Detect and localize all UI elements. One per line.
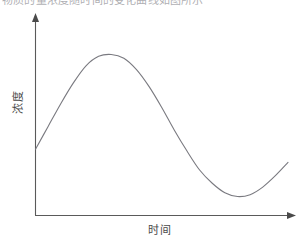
chart-figure: 物质的量浓度随时间的变化曲线如图所示 浓度 时间	[0, 0, 305, 248]
concentration-curve	[36, 54, 289, 196]
y-axis-arrowhead	[32, 13, 39, 22]
x-axis-label: 时间	[148, 221, 172, 237]
y-axis-label: 浓度	[9, 82, 25, 122]
plot-area	[0, 0, 305, 248]
x-axis-arrowhead	[287, 212, 296, 219]
